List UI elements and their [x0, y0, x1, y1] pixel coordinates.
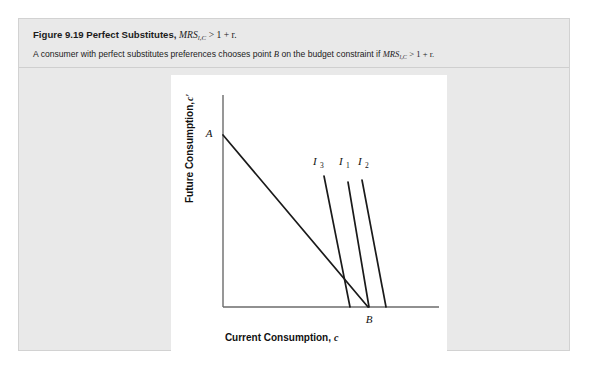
- figure-title-text: Perfect Substitutes,: [86, 29, 176, 40]
- plot-area: I 3 I 1 I 2 A B Current Consumption, c F…: [171, 75, 447, 351]
- figure-subtitle: A consumer with perfect substitutes pref…: [33, 48, 555, 63]
- indifference-curve-1-label: I: [338, 155, 344, 167]
- x-axis-title: Current Consumption,: [225, 332, 331, 343]
- figure-number: Figure 9.19: [33, 29, 84, 40]
- indifference-curve-3-label-subscript: 3: [320, 161, 324, 170]
- y-axis-title-variable: c′: [184, 94, 195, 101]
- figure-caption: Figure 9.19 Perfect Substitutes, MRSl,C …: [19, 19, 569, 70]
- figure-subtitle-point-label: B: [274, 49, 279, 59]
- figure-panel: Figure 9.19 Perfect Substitutes, MRSl,C …: [18, 18, 570, 351]
- y-axis-title: Future Consumption,: [184, 102, 195, 203]
- point-a-label: A: [205, 127, 213, 139]
- figure-title-mrs: MRS: [179, 29, 198, 40]
- figure-subtitle-mrs-subscript: l,C: [399, 53, 406, 60]
- indifference-curve-2-label-subscript: 2: [365, 161, 369, 170]
- figure-title: Figure 9.19 Perfect Substitutes, MRSl,C …: [33, 28, 555, 44]
- caption-divider: [19, 67, 569, 68]
- figure-subtitle-part2: on the budget constraint if: [281, 49, 380, 59]
- indifference-curve-2-label: I: [357, 155, 363, 167]
- indifference-curve-3-label: I: [312, 155, 318, 167]
- indifference-curve-1-label-subscript: 1: [346, 161, 350, 170]
- figure-title-relation: > 1 + r.: [209, 29, 237, 40]
- indifference-curve-3-line: [324, 176, 350, 307]
- point-b-label: B: [366, 313, 373, 325]
- figure-subtitle-part1: A consumer with perfect substitutes pref…: [33, 49, 271, 59]
- x-axis-title-variable: c: [334, 332, 339, 343]
- figure-subtitle-mrs: MRS: [383, 49, 400, 59]
- indifference-curve-chart: I 3 I 1 I 2 A B Current Consumption, c F…: [171, 75, 447, 351]
- figure-title-mrs-subscript: l,C: [198, 34, 206, 41]
- figure-subtitle-relation: > 1 + r.: [409, 49, 434, 59]
